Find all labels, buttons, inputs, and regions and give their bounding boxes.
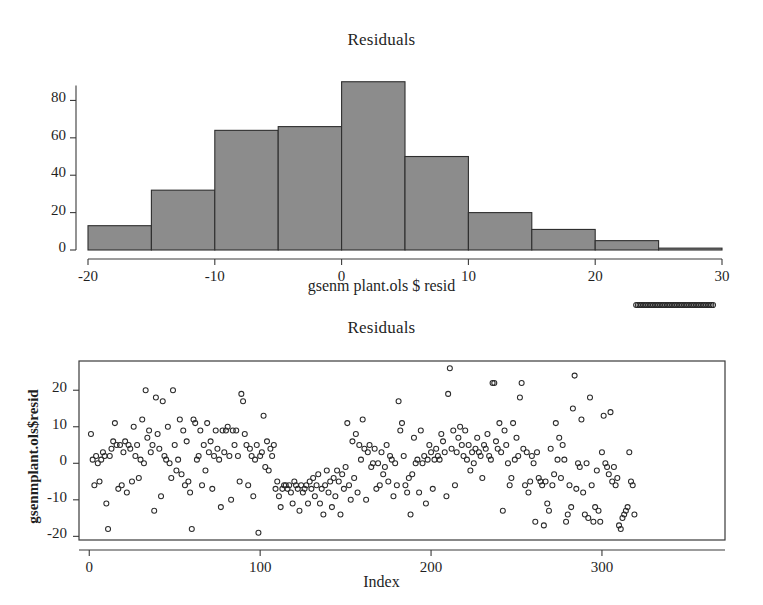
scatter-point — [340, 472, 345, 477]
scatter-point — [394, 483, 399, 488]
scatter-point — [499, 450, 504, 455]
scatter-x-axis — [79, 550, 725, 556]
scatter-point — [177, 417, 182, 422]
scatter-point — [213, 428, 218, 433]
scatter-point — [239, 391, 244, 396]
scatter-point — [546, 508, 551, 513]
scatter-point — [167, 461, 172, 466]
scatter-y-tick-label: 10 — [11, 416, 67, 433]
scatter-point — [235, 453, 240, 458]
scatter-point — [210, 486, 215, 491]
scatter-point — [181, 428, 186, 433]
scatter-point — [572, 373, 577, 378]
scatter-point — [360, 417, 365, 422]
histogram-bar — [278, 127, 341, 250]
histogram-y-tick-label: 60 — [26, 127, 66, 144]
scatter-point — [107, 453, 112, 458]
scatter-point — [471, 461, 476, 466]
scatter-point — [519, 380, 524, 385]
scatter-point — [608, 410, 613, 415]
scatter-point — [341, 486, 346, 491]
scatter-point — [336, 479, 341, 484]
scatter-point — [526, 490, 531, 495]
scatter-point — [353, 432, 358, 437]
scatter-point — [447, 366, 452, 371]
scatter-point — [165, 424, 170, 429]
scatter-point — [505, 461, 510, 466]
histogram-y-axis — [70, 85, 76, 250]
scatter-point — [266, 468, 271, 473]
scatter-point — [558, 475, 563, 480]
scatter-point — [427, 443, 432, 448]
scatter-point — [170, 388, 175, 393]
scatter-point — [555, 457, 560, 462]
histogram-bar — [405, 157, 468, 250]
scatter-point — [564, 519, 569, 524]
scatter-point — [586, 516, 591, 521]
scatter-point — [218, 505, 223, 510]
scatter-point — [459, 443, 464, 448]
scatter-point — [569, 505, 574, 510]
scatter-point — [155, 432, 160, 437]
scatter-point — [615, 475, 620, 480]
scatter-point — [531, 461, 536, 466]
scatter-x-tick-label: 100 — [230, 559, 290, 576]
scatter-point — [381, 472, 386, 477]
scatter-x-tick-label: 300 — [572, 559, 632, 576]
scatter-point — [273, 486, 278, 491]
histogram-bar — [88, 226, 151, 250]
scatter-point — [153, 395, 158, 400]
scatter-point — [131, 424, 136, 429]
scatter-point — [598, 519, 603, 524]
scatter-point — [343, 464, 348, 469]
scatter-point — [500, 508, 505, 513]
scatter-point — [143, 388, 148, 393]
scatter-point — [480, 475, 485, 480]
scatter-point — [246, 483, 251, 488]
histogram-bar — [151, 190, 214, 250]
scatter-point — [429, 450, 434, 455]
scatter-y-axis — [73, 390, 79, 536]
scatter-point — [425, 457, 430, 462]
scatter-point — [186, 479, 191, 484]
scatter-point — [456, 435, 461, 440]
scatter-point — [135, 443, 140, 448]
scatter-point — [504, 443, 509, 448]
scatter-y-tick-label: 0 — [11, 452, 67, 469]
scatter-point — [502, 428, 507, 433]
scatter-point — [241, 399, 246, 404]
scatter-point — [112, 421, 117, 426]
scatter-point — [579, 417, 584, 422]
scatter-point — [270, 453, 275, 458]
scatter-point — [589, 483, 594, 488]
scatter-point — [511, 421, 516, 426]
scatter-point — [507, 483, 512, 488]
scatter-point — [323, 483, 328, 488]
scatter-point — [398, 428, 403, 433]
scatter-point — [400, 421, 405, 426]
scatter-point — [106, 527, 111, 532]
scatter-point — [160, 399, 165, 404]
scatter-point — [184, 439, 189, 444]
scatter-point — [601, 413, 606, 418]
scatter-point — [338, 512, 343, 517]
scatter-point — [401, 453, 406, 458]
scatter-point — [200, 483, 205, 488]
scatter-point — [591, 519, 596, 524]
scatter-point — [574, 486, 579, 491]
scatter-point — [227, 453, 232, 458]
scatter-point — [331, 475, 336, 480]
scatter-point — [172, 443, 177, 448]
scatter-point — [581, 490, 586, 495]
histogram-canvas — [0, 0, 763, 310]
scatter-point — [109, 446, 114, 451]
scatter-point — [242, 432, 247, 437]
scatter-point — [497, 421, 502, 426]
scatter-point — [215, 446, 220, 451]
scatter-point — [523, 483, 528, 488]
scatter-point — [442, 450, 447, 455]
histogram-x-tick-label: -10 — [185, 268, 245, 285]
scatter-point — [169, 475, 174, 480]
scatter-point — [548, 446, 553, 451]
scatter-point — [251, 494, 256, 499]
